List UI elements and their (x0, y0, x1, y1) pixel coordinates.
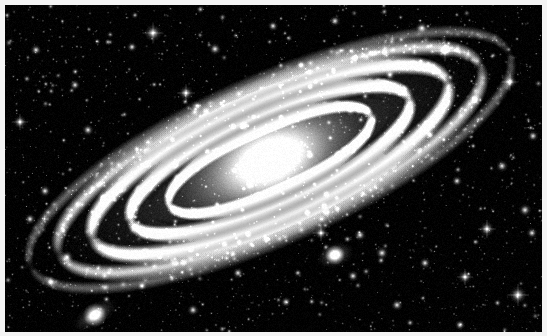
astrophotograph-stage (0, 0, 547, 336)
sky-canvas (5, 5, 542, 332)
photo-frame-border (0, 0, 547, 336)
sky-exposure (5, 5, 542, 332)
